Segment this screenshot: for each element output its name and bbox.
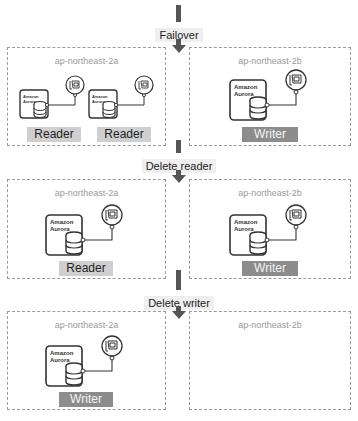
arrow-shaft — [176, 270, 181, 290]
aurora-instance-icon: Amazon Aurora — [228, 199, 318, 259]
arrow-shaft — [176, 140, 181, 153]
down-arrow-icon — [172, 311, 186, 319]
svg-text:Amazon: Amazon — [234, 84, 258, 90]
network-interface-icon — [102, 205, 122, 225]
database-cylinder-icon — [66, 232, 82, 254]
svg-text:Amazon: Amazon — [50, 219, 74, 225]
svg-text:Aurora: Aurora — [50, 357, 70, 363]
svg-text:Amazon: Amazon — [234, 219, 258, 225]
database-cylinder-icon — [34, 102, 46, 118]
network-interface-icon — [286, 70, 306, 90]
database-cylinder-icon — [66, 363, 82, 385]
role-badge-writer: Writer — [242, 261, 298, 276]
zone-label: ap-northeast-2a — [8, 320, 165, 330]
zone-label: ap-northeast-2b — [190, 188, 350, 198]
network-interface-icon — [102, 336, 122, 356]
network-interface-icon — [286, 205, 306, 225]
down-arrow-icon — [172, 45, 186, 53]
network-interface-icon — [66, 76, 84, 94]
aurora-instance-icon: Amazon Aurora — [228, 64, 318, 124]
svg-text:Amazon: Amazon — [50, 350, 74, 356]
database-cylinder-icon — [103, 102, 115, 118]
role-badge-reader: Reader — [97, 127, 151, 142]
role-badge-writer: Writer — [242, 127, 298, 142]
svg-text:Aurora: Aurora — [234, 226, 254, 232]
zone-label: ap-northeast-2a — [8, 188, 165, 198]
aurora-instance-icon: Amazon Aurora — [18, 72, 93, 122]
zone-box: ap-northeast-2b — [189, 311, 351, 410]
role-badge-reader: Reader — [27, 127, 81, 142]
network-interface-icon — [135, 76, 153, 94]
role-badge-writer: Writer — [59, 392, 113, 407]
role-badge-reader: Reader — [59, 261, 113, 276]
aurora-instance-icon: Amazon Aurora — [44, 199, 134, 259]
database-cylinder-icon — [250, 232, 266, 254]
svg-text:Aurora: Aurora — [50, 226, 70, 232]
down-arrow-icon — [172, 175, 186, 183]
zone-label: ap-northeast-2a — [8, 56, 165, 66]
aurora-instance-icon: Amazon Aurora — [87, 72, 162, 122]
aurora-instance-icon: Amazon Aurora — [44, 330, 134, 390]
svg-text:Aurora: Aurora — [234, 91, 254, 97]
zone-label: ap-northeast-2b — [190, 320, 350, 330]
arrow-shaft — [176, 5, 181, 22]
database-cylinder-icon — [250, 97, 266, 119]
